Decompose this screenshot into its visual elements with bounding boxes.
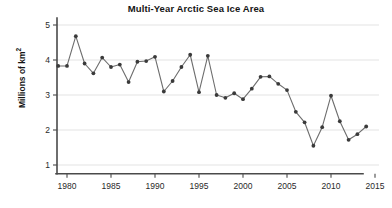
data-point-2001 [250, 87, 254, 91]
y-tick-label-2: 2 [45, 125, 50, 135]
data-point-1981 [74, 34, 78, 38]
data-point-1982 [83, 62, 87, 66]
data-point-2005 [285, 88, 289, 92]
data-point-1997 [215, 93, 219, 97]
x-tick-labels-group: 19801985199019952000200520102015 [58, 181, 385, 191]
axis-lines-group [56, 18, 363, 174]
data-point-2004 [276, 82, 280, 86]
chart-container: Multi-Year Arctic Sea Ice Area Millions … [0, 0, 392, 208]
data-point-2003 [268, 75, 272, 79]
data-point-1992 [171, 79, 175, 83]
data-point-2012 [347, 138, 351, 142]
data-point-2007 [303, 120, 307, 124]
data-point-1990 [153, 55, 157, 59]
data-point-2011 [338, 119, 342, 123]
data-point-1995 [197, 90, 201, 94]
y-tick-label-5: 5 [45, 20, 50, 30]
x-tick-label-1985: 1985 [102, 181, 121, 191]
data-point-2010 [329, 94, 333, 98]
x-tick-label-2005: 2005 [278, 181, 297, 191]
data-point-1979 [56, 64, 60, 68]
series-line [58, 36, 366, 146]
y-tick-label-1: 1 [45, 160, 50, 170]
data-point-2006 [294, 110, 298, 114]
data-point-1980 [65, 64, 69, 68]
data-point-2002 [259, 75, 263, 79]
data-point-1994 [188, 53, 192, 57]
x-tick-label-2000: 2000 [234, 181, 253, 191]
data-point-1998 [224, 96, 228, 100]
y-tick-label-4: 4 [45, 55, 50, 65]
x-tick-label-1990: 1990 [146, 181, 165, 191]
data-point-2009 [320, 125, 324, 129]
data-point-1996 [206, 54, 210, 58]
data-point-2014 [364, 125, 368, 129]
data-point-1989 [144, 59, 148, 63]
data-point-1993 [180, 65, 184, 69]
data-point-2000 [241, 97, 245, 101]
x-tick-label-2015: 2015 [366, 181, 385, 191]
data-point-1983 [92, 71, 96, 75]
data-point-2008 [312, 144, 316, 148]
data-point-2013 [356, 132, 360, 136]
y-tick-labels-group: 12345 [45, 20, 50, 170]
y-tick-label-3: 3 [45, 90, 50, 100]
data-series-group [56, 34, 368, 147]
data-point-1999 [232, 91, 236, 95]
data-point-1985 [109, 65, 113, 69]
plot-area: 12345 19801985199019952000200520102015 [0, 0, 392, 208]
x-tick-label-1995: 1995 [190, 181, 209, 191]
data-point-markers-group [56, 34, 368, 147]
x-tick-label-2010: 2010 [322, 181, 341, 191]
data-point-1988 [136, 60, 140, 64]
data-point-1986 [118, 63, 122, 67]
data-point-1991 [162, 90, 166, 94]
x-tick-label-1980: 1980 [58, 181, 77, 191]
data-point-1984 [100, 56, 104, 60]
data-point-1987 [127, 80, 131, 84]
